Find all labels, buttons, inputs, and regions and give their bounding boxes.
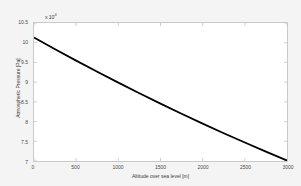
x-tick-label: 1500 (155, 164, 166, 170)
x-tick-label: 2500 (240, 164, 251, 170)
y-tick-label: 8 (0, 120, 28, 125)
y-tick-label: 9.5 (0, 60, 28, 65)
x-tick-label: 3000 (282, 164, 293, 170)
x-tick-label: 500 (71, 164, 79, 170)
y-tick-label: 10.5 (0, 20, 28, 25)
y-axis-title: Atmospheric Pressure [Pa] (15, 18, 21, 158)
x-tick-label: 2000 (197, 164, 208, 170)
x-tick-label: 1000 (112, 164, 123, 170)
y-tick-label: 10 (0, 40, 28, 45)
y-axis-tick-labels: 77.588.599.51010.5 (0, 0, 301, 186)
x-tick-label: 0 (32, 164, 35, 170)
y-tick-label: 8.5 (0, 100, 28, 105)
y-tick-label: 9 (0, 80, 28, 85)
x-axis-title: Altitude over sea level [m] (33, 173, 288, 179)
y-tick-label: 7.5 (0, 140, 28, 145)
figure-container: x 104 77.588.599.51010.5 050010001500200… (0, 0, 301, 186)
